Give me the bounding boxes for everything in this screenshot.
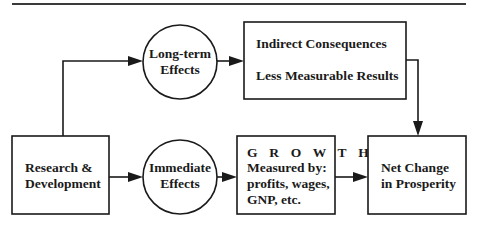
node-indirect-consequences: Indirect Consequences Less Measurable Re… <box>244 22 406 99</box>
node-long-term-effects: Long-term Effects <box>143 25 217 99</box>
node-net-change-prosperity: Net Change in Prosperity <box>368 136 466 214</box>
edge-research-to-immediate <box>109 172 143 182</box>
node-immediate-effects: Immediate Effects <box>143 140 217 214</box>
arrowhead <box>128 172 143 182</box>
node-label-line: Research & <box>25 160 93 175</box>
node-label-line: profits, wages, <box>247 176 330 191</box>
edge-long-term-to-indirect <box>217 56 244 66</box>
node-label-line: Effects <box>160 62 200 77</box>
arrowhead <box>229 56 244 66</box>
node-label-line: Measured by: <box>247 160 327 175</box>
node-research-development: Research & Development <box>12 136 109 214</box>
node-label-line: Net Change <box>381 160 449 175</box>
edge-immediate-to-growth <box>217 172 237 182</box>
node-label-line: GNP, etc. <box>247 192 301 207</box>
arrowhead <box>222 172 237 182</box>
edge-research-to-long-term <box>63 56 143 136</box>
node-label-line: Development <box>25 176 101 191</box>
node-label-line: Immediate <box>149 160 211 175</box>
node-label-line: Indirect Consequences <box>256 36 387 51</box>
flow-diagram: Research & Development Long-term Effects… <box>0 0 478 230</box>
node-label-line: in Prosperity <box>381 176 456 191</box>
arrowhead <box>413 121 423 136</box>
node-label-line: Less Measurable Results <box>256 68 399 83</box>
arrowhead <box>353 172 368 182</box>
node-growth: G R O W T H Measured by: profits, wages,… <box>237 136 373 214</box>
node-title: G R O W T H <box>247 145 373 160</box>
edge-indirect-to-net-change <box>406 60 423 136</box>
node-label-line: Effects <box>160 176 200 191</box>
arrowhead <box>128 56 143 66</box>
edge-growth-to-net-change <box>335 172 368 182</box>
node-label-line: Long-term <box>149 46 212 61</box>
